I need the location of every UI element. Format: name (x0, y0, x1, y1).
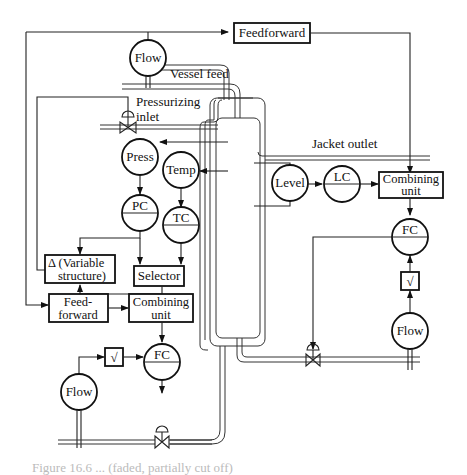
flow-top-instrument: Flow (130, 40, 166, 88)
pc-label: PC (132, 198, 148, 213)
feedforward-bottom-label-2: forward (58, 308, 98, 322)
variable-structure-loop (37, 97, 128, 270)
fc-bottom-controller: FC (144, 344, 180, 393)
sqrt-right-label: √ (406, 274, 414, 289)
fc-right-label: FC (402, 222, 418, 237)
temp-label: Temp (166, 162, 195, 177)
pc-controller: PC (80, 195, 158, 264)
variable-structure-label-2: structure) (58, 269, 106, 283)
sqrt-right-block: √ (401, 256, 419, 313)
process-control-diagram: Vessel feed Pressurizing inlet Feedforwa… (0, 0, 467, 475)
level-label: Level (275, 175, 305, 190)
pressurizing-label-2: inlet (136, 109, 159, 124)
tc-controller: TC (163, 207, 199, 264)
flow-top-label: Flow (135, 50, 162, 65)
jacket-outlet-label: Jacket outlet (312, 136, 378, 151)
bottom-control-valve-icon (155, 426, 169, 448)
combining-right-block: Combining unit (379, 172, 443, 215)
combining-bottom-label-2: unit (151, 308, 171, 322)
combining-bottom-block: Combining unit (129, 294, 193, 342)
combining-bottom-label-1: Combining (133, 295, 190, 309)
variable-structure-label-1: Δ (Variable (48, 256, 105, 270)
fc-bottom-label: FC (154, 347, 170, 362)
variable-structure-block: Δ (Variable structure) (45, 255, 115, 283)
flow-bottom-label: Flow (66, 384, 93, 399)
sqrt-bottom-label: √ (110, 350, 118, 365)
lc-controller: LC (324, 166, 378, 202)
vessel (158, 65, 430, 444)
vessel-feed-label: Vessel feed (170, 66, 229, 81)
feedforward-bottom-label-1: Feed- (64, 295, 92, 309)
flow-bottom-instrument: Flow (61, 374, 97, 448)
combining-right-label-2: unit (401, 184, 421, 198)
feedforward-top-label: Feedforward (239, 25, 306, 40)
selector-label: Selector (138, 268, 181, 283)
level-instrument: Level (254, 163, 322, 206)
lc-label: LC (334, 169, 351, 184)
sqrt-bottom-block: √ (79, 348, 143, 374)
press-label: Press (126, 149, 153, 164)
flow-right-instrument: Flow (392, 313, 428, 370)
feedforward-bottom-block: Feed- forward (49, 294, 128, 322)
pressurizing-label-1: Pressurizing (136, 94, 201, 109)
tc-label: TC (173, 210, 190, 225)
figure-caption: Figure 16.6 ... (faded, partially cut of… (32, 460, 233, 475)
flow-right-label: Flow (397, 323, 424, 338)
temp-instrument: Temp (163, 152, 228, 207)
